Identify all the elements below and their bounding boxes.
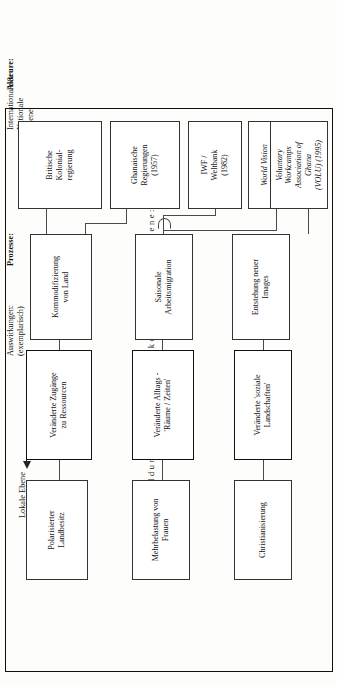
connector-ctx3-eff3 xyxy=(263,460,264,480)
box-iwf-weltbank[interactable]: IWF / Weltbank (1982) xyxy=(188,121,242,209)
connector-ctx2-eff2 xyxy=(162,460,163,480)
box-christianisierung[interactable]: Christianisierung xyxy=(234,480,292,580)
box-polarisierter-landbesitz[interactable]: Polarisierter Landbesitz xyxy=(26,480,88,580)
box-ghanaische-regierungen[interactable]: Ghanaische Regierungen (1957) xyxy=(110,121,180,209)
connector-actor4-stub xyxy=(276,209,277,231)
connector-proc1-ctx1 xyxy=(59,340,60,350)
box-entstehung-neuer-images[interactable]: Entstehung neuer Images xyxy=(232,234,290,340)
connector-actor4-riser xyxy=(163,230,277,231)
line-hop-bridge-icon xyxy=(158,218,171,229)
box-veraenderte-zugaenge-zu-ressourcen[interactable]: Veränderte Zugänge zu Ressourcen xyxy=(26,350,92,460)
box-veraenderte-soziale-landschaften[interactable]: Veränderte 'soziale Landschaften' xyxy=(234,350,292,460)
connector-actor1-proc1 xyxy=(46,209,47,234)
figure-canvas: Akteure: Internationale & Nationale Eben… xyxy=(0,0,337,686)
connector-actor2-stub xyxy=(126,209,127,224)
box-mehrbelastung-von-frauen[interactable]: Mehrbelastung von Frauen xyxy=(132,480,190,580)
connector-actor2-proc1 xyxy=(85,223,86,234)
connector-proc2-ctx2 xyxy=(162,340,163,350)
connector-actor2-riser xyxy=(85,223,127,224)
connector-actor3-riser xyxy=(163,215,216,216)
connector-ctx1-eff1 xyxy=(59,460,60,480)
box-saisonale-arbeitsmigration[interactable]: Saisonale Arbeitsmigration xyxy=(135,234,193,340)
connector-actor5-proc3 xyxy=(308,209,309,234)
box-kommodifizierung-von-land[interactable]: Kommodifizierung von Land xyxy=(30,234,92,340)
box-volu[interactable]: Voluntary Workcamps Association of Ghana… xyxy=(270,121,328,209)
rotated-diagram-layer: Akteure: Internationale & Nationale Eben… xyxy=(0,0,337,686)
box-veraenderte-alltags-raeume-zeiten[interactable]: Veränderte Alltags - 'Räume / Zeiten' xyxy=(132,350,194,460)
connector-proc3-ctx3 xyxy=(263,340,264,350)
box-britische-kolonialregierung[interactable]: Britische Kolonial- regierung xyxy=(18,121,102,209)
